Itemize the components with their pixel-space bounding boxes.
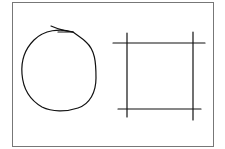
drawing-canvas xyxy=(0,0,225,149)
frame-border xyxy=(13,3,214,147)
